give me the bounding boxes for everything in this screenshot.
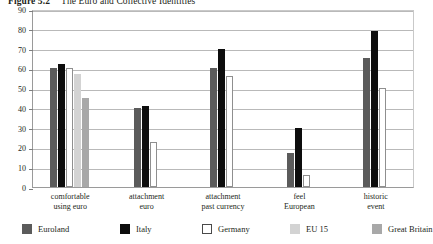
x-axis-label-line: European — [261, 202, 337, 212]
bar-italy — [295, 128, 302, 187]
legend-label: Germany — [218, 224, 250, 234]
legend-label: Great Britain — [388, 224, 433, 234]
chart-legend: EurolandItalyGermanyEU 15Great Britain — [22, 224, 412, 240]
bar-germany — [66, 68, 73, 187]
legend-swatch-icon — [202, 224, 212, 234]
y-axis-tick-label: 60 — [2, 65, 26, 74]
bar-euroland — [287, 153, 294, 187]
figure-caption: Figure 5.2The Euro and Collective Identi… — [8, 0, 195, 6]
legend-label: Italy — [136, 224, 152, 234]
bar-germany — [226, 76, 233, 187]
bar-italy — [142, 106, 149, 187]
legend-label: EU 15 — [306, 224, 328, 234]
bar-euroland — [210, 68, 217, 187]
y-axis-tick-label: 20 — [2, 144, 26, 153]
legend-item-eu-15[interactable]: EU 15 — [290, 224, 328, 234]
bar-euroland — [50, 68, 57, 187]
x-axis-label-line: comfortable — [32, 192, 108, 202]
legend-item-great-britain[interactable]: Great Britain — [372, 224, 433, 234]
bar-group — [109, 11, 185, 187]
legend-label: Euroland — [38, 224, 69, 234]
bar-group — [186, 11, 262, 187]
bar-euroland — [363, 58, 370, 187]
x-axis-label: attachmenteuro — [108, 192, 184, 211]
y-axis-tick-label: 40 — [2, 104, 26, 113]
x-axis-label-line: past currency — [185, 202, 261, 212]
bar-germany — [150, 142, 157, 187]
bar-eu-15 — [74, 74, 81, 187]
bar-italy — [218, 49, 225, 187]
bar-germany — [303, 175, 310, 187]
y-axis-tick-label: 70 — [2, 45, 26, 54]
legend-item-italy[interactable]: Italy — [120, 224, 152, 234]
x-axis-label-line: euro — [108, 202, 184, 212]
y-axis-tick-label: 90 — [2, 6, 26, 15]
x-axis-labels: comfortableusing euroattachmenteuroattac… — [32, 190, 414, 218]
x-axis-label-line: historic — [338, 192, 414, 202]
x-axis-label-line: attachment — [108, 192, 184, 202]
x-axis-label: attachmentpast currency — [185, 192, 261, 211]
bar-great-britain — [82, 98, 89, 187]
x-axis-label: comfortableusing euro — [32, 192, 108, 211]
bar-groups — [33, 11, 413, 187]
legend-item-euroland[interactable]: Euroland — [22, 224, 69, 234]
y-axis-tick-label: 80 — [2, 25, 26, 34]
legend-item-germany[interactable]: Germany — [202, 224, 250, 234]
bar-euroland — [134, 108, 141, 187]
x-axis-label-line: event — [338, 202, 414, 212]
x-axis-label: feelEuropean — [261, 192, 337, 211]
y-axis-tick-label: 30 — [2, 124, 26, 133]
legend-swatch-icon — [290, 224, 300, 234]
bar-group — [262, 11, 338, 187]
x-axis-label-line: attachment — [185, 192, 261, 202]
x-axis-label-line: feel — [261, 192, 337, 202]
bar-group — [33, 11, 109, 187]
y-axis-tick-label: 50 — [2, 85, 26, 94]
bar-italy — [371, 31, 378, 187]
x-axis-label: historicevent — [338, 192, 414, 211]
y-axis-tick-label: 0 — [2, 184, 26, 193]
legend-swatch-icon — [372, 224, 382, 234]
y-axis-tick-label: 10 — [2, 164, 26, 173]
bar-group — [339, 11, 415, 187]
figure-title-text: The Euro and Collective Identities — [61, 0, 195, 6]
y-axis-labels: 0102030405060708090 — [0, 10, 26, 188]
legend-swatch-icon — [120, 224, 130, 234]
legend-swatch-icon — [22, 224, 32, 234]
bar-italy — [58, 64, 65, 187]
x-axis-label-line: using euro — [32, 202, 108, 212]
plot-area — [32, 10, 414, 188]
bar-germany — [379, 88, 386, 187]
